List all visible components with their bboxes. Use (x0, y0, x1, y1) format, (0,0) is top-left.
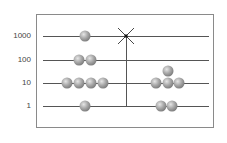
bead-right-1 (156, 101, 167, 112)
row-label-1: 1 (27, 101, 31, 111)
bead-left-1000 (80, 31, 91, 42)
bead-left-100 (86, 55, 97, 66)
bead-left-1 (80, 101, 91, 112)
bead-left-10 (98, 78, 109, 89)
bead-right-10 (174, 78, 185, 89)
bead-left-10 (74, 78, 85, 89)
bead-left-100 (74, 55, 85, 66)
row-label-10: 10 (22, 78, 31, 88)
bead-right-10 (151, 78, 162, 89)
bead-left-10 (86, 78, 97, 89)
bead-left-10 (62, 78, 73, 89)
row-label-1000: 1000 (13, 31, 31, 41)
row-label-100: 100 (18, 55, 31, 65)
group-divider (126, 36, 127, 107)
bead-right-1 (167, 101, 178, 112)
bead-right-extra (163, 66, 174, 77)
bead-right-10 (163, 78, 174, 89)
